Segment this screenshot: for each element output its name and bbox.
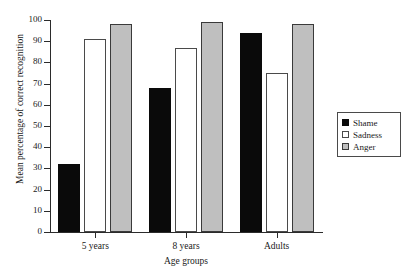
bar-shame-8-years [149,88,171,232]
legend: ShameSadnessAnger [337,112,401,157]
y-tick [44,62,50,63]
legend-swatch-shame-icon [342,119,349,126]
x-group-label-8-years: 8 years [141,241,231,252]
legend-item-anger: Anger [342,141,396,152]
legend-item-sadness: Sadness [342,129,396,140]
x-group-label-adults: Adults [232,241,322,252]
legend-label: Shame [353,118,378,128]
legend-swatch-sadness-icon [342,131,349,138]
y-tick [44,147,50,148]
bar-sadness-5-years [84,39,106,232]
y-tick [44,20,50,21]
y-tick [44,232,50,233]
bar-chart-figure: 0102030405060708090100 5 years8 yearsAdu… [0,0,413,279]
y-axis-title: Mean percentage of correct recognition [15,3,25,215]
x-tick [186,233,187,238]
y-tick [44,105,50,106]
bar-sadness-8-years [175,48,197,232]
y-tick [44,84,50,85]
y-tick-label: 0 [2,227,42,236]
legend-label: Sadness [353,130,382,140]
y-axis-line [50,20,51,233]
x-tick [95,233,96,238]
bar-anger-adults [292,24,314,232]
bar-shame-adults [240,33,262,232]
y-tick [44,41,50,42]
bar-sadness-adults [266,73,288,232]
y-tick [44,126,50,127]
y-tick [44,190,50,191]
x-tick [277,233,278,238]
y-tick [44,211,50,212]
y-tick [44,168,50,169]
bar-anger-5-years [110,24,132,232]
legend-label: Anger [353,142,376,152]
x-axis-title: Age groups [0,256,372,266]
x-group-label-5-years: 5 years [50,241,140,252]
bar-shame-5-years [58,164,80,232]
legend-item-shame: Shame [342,117,396,128]
bar-anger-8-years [201,22,223,232]
legend-swatch-anger-icon [342,143,349,150]
